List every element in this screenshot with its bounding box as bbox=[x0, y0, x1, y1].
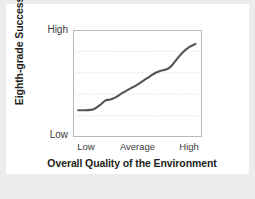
x-axis-tick-high: High bbox=[179, 141, 199, 152]
data-curve-eighth-grade-success bbox=[78, 44, 195, 110]
plot-canvas bbox=[73, 30, 202, 137]
y-axis-tick-low: Low bbox=[28, 129, 68, 140]
x-axis-tick-average: Average bbox=[120, 141, 155, 152]
chart-figure: Eighth-grade Success High Low Low Averag… bbox=[0, 0, 255, 199]
y-axis-tick-high: High bbox=[28, 24, 68, 35]
x-axis-title: Overall Quality of the Environment bbox=[32, 157, 232, 169]
y-axis-title: Eighth-grade Success bbox=[13, 0, 25, 106]
x-axis-tick-low: Low bbox=[77, 141, 94, 152]
